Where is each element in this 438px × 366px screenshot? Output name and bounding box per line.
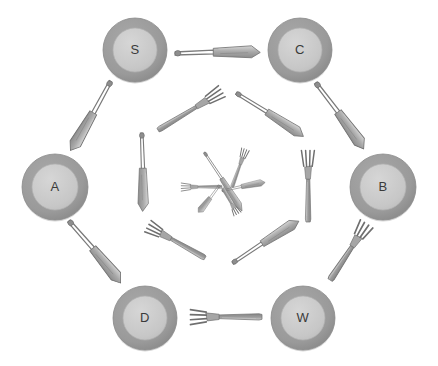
- plate-label: D: [140, 310, 150, 325]
- plate-d: D: [113, 286, 177, 352]
- plate-label: W: [297, 310, 310, 325]
- plate-b: B: [350, 154, 416, 222]
- plate-label: A: [50, 179, 59, 194]
- plate-w: W: [271, 286, 335, 352]
- diagram-canvas: SCABDW: [0, 0, 438, 366]
- plate-label: S: [130, 42, 139, 57]
- nested-place-setting-diagram: SCABDW: [0, 0, 438, 366]
- plate-label: C: [295, 42, 305, 57]
- plate-a: A: [22, 154, 88, 222]
- plate-s: S: [103, 18, 167, 84]
- plate-label: B: [378, 179, 387, 194]
- plate-c: C: [268, 18, 332, 84]
